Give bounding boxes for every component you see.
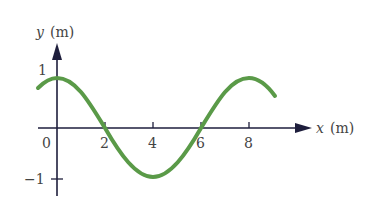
y-axis-label: y (35, 24, 45, 40)
x-axis-arrow-icon (295, 123, 312, 133)
y-tick-label-1: 1 (38, 62, 47, 78)
x-tick-label-6: 6 (196, 135, 205, 151)
x-tick-label-4: 4 (148, 135, 157, 151)
wave-chart: y (m) x (m) 0 2 4 6 8 1 −1 (0, 0, 383, 204)
x-tick-label-2: 2 (100, 135, 109, 151)
y-axis-arrow-icon (52, 43, 62, 60)
x-axis-unit: (m) (330, 120, 354, 136)
x-tick-label-8: 8 (244, 135, 253, 151)
y-tick-label-neg1: −1 (24, 171, 45, 187)
x-axis-label: x (316, 120, 324, 136)
y-axis-unit: (m) (50, 24, 74, 40)
x-tick-label-0: 0 (42, 135, 51, 151)
